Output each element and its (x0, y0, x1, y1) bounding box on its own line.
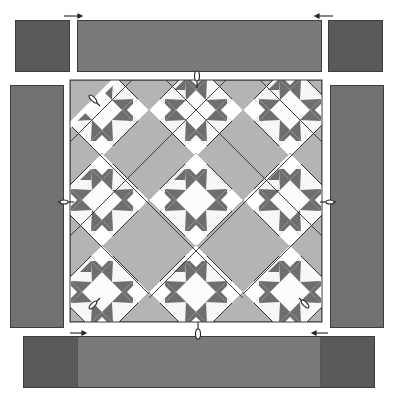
quilt-center-diagram (0, 0, 395, 397)
